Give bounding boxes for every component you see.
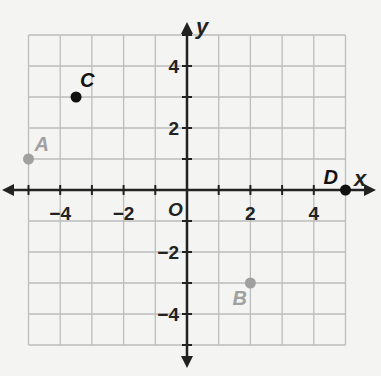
y-tick-label: −4 [157, 304, 179, 325]
y-tick-label: 4 [168, 56, 179, 77]
point-d [340, 185, 351, 196]
y-axis-down-arrow-icon [181, 356, 193, 368]
y-axis-up-arrow-icon [181, 22, 193, 34]
x-tick-label: −4 [49, 203, 71, 224]
x-tick-label: −2 [113, 203, 135, 224]
x-tick-label: 4 [309, 203, 320, 224]
point-label-a: A [34, 133, 49, 155]
x-tick-label: 2 [245, 203, 256, 224]
point-label-d: D [324, 166, 338, 188]
coordinate-plane: y x O −4−224 42−2−4 ABCD [0, 0, 381, 376]
y-tick-label: 2 [168, 118, 179, 139]
x-axis-left-arrow-icon [2, 184, 14, 196]
y-tick-label: −2 [157, 242, 179, 263]
point-a [23, 154, 34, 165]
x-axis-label: x [353, 166, 367, 191]
point-c [71, 92, 82, 103]
axes [2, 22, 376, 368]
y-axis-label: y [195, 14, 210, 39]
origin-label: O [168, 199, 183, 220]
point-label-b: B [232, 287, 246, 309]
point-label-c: C [80, 69, 95, 91]
